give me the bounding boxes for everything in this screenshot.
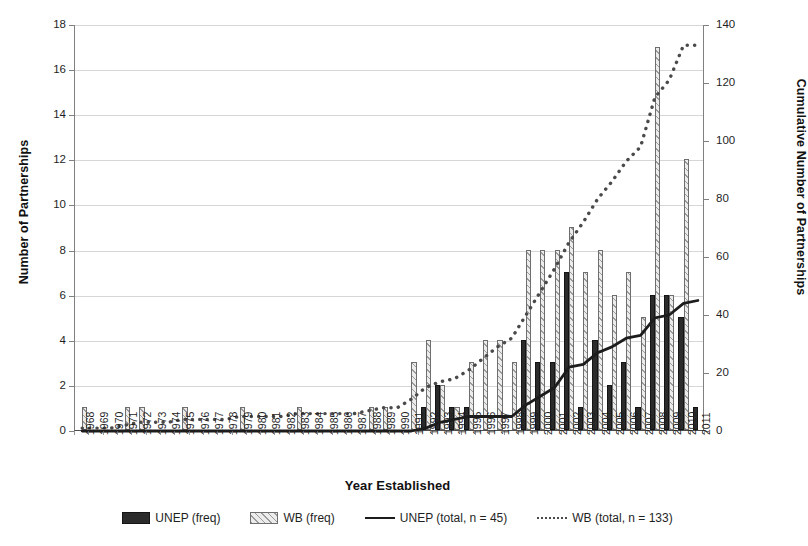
y-axis-right-tick-label: 120 — [716, 77, 756, 89]
x-axis-tick-label: 1988 — [372, 412, 383, 435]
y-axis-right-title: Cumulative Number of Partnerships — [794, 47, 808, 327]
x-axis-tick-label: 1974 — [171, 412, 182, 435]
x-axis-tick-label: 2003 — [586, 412, 597, 435]
x-axis-tick-label: 1991 — [414, 412, 425, 435]
x-axis-tick-label: 1986 — [343, 412, 354, 435]
x-axis-tick-label: 1997 — [500, 412, 511, 435]
x-axis-tick-label: 2008 — [658, 412, 669, 435]
x-axis-tick-label: 1977 — [214, 412, 225, 435]
x-axis-tick-label: 1992 — [429, 412, 440, 435]
x-axis-labels: 1968196919701971197219731974197519761977… — [74, 433, 704, 477]
line-series-group — [75, 25, 705, 431]
y-axis-right-tick-label: 0 — [716, 425, 756, 437]
x-axis-tick-label: 1983 — [300, 412, 311, 435]
x-axis-tick-label: 1996 — [486, 412, 497, 435]
y-axis-left-tick-mark — [69, 205, 74, 206]
y-axis-left-tick-mark — [69, 341, 74, 342]
y-axis-right-tick-mark — [704, 83, 709, 84]
y-axis-left-tick-label: 10 — [26, 199, 66, 211]
x-axis-tick-label: 1971 — [128, 412, 139, 435]
legend-item[interactable]: UNEP (total, n = 45) — [365, 511, 508, 525]
x-axis-tick-label: 1985 — [329, 412, 340, 435]
legend-label: WB (freq) — [283, 511, 334, 525]
x-axis-tick-label: 1979 — [243, 412, 254, 435]
y-axis-right-tick-mark — [704, 199, 709, 200]
y-axis-left-tick-label: 4 — [26, 335, 66, 347]
x-axis-tick-label: 1989 — [386, 412, 397, 435]
y-axis-left-tick-mark — [69, 160, 74, 161]
x-axis-title: Year Established — [0, 478, 795, 493]
wb-bar-swatch-icon — [250, 512, 278, 524]
x-axis-tick-label: 1975 — [185, 412, 196, 435]
chart-legend: UNEP (freq)WB (freq)UNEP (total, n = 45)… — [0, 505, 795, 531]
y-axis-left-tick-label: 14 — [26, 109, 66, 121]
x-axis-tick-label: 1981 — [271, 412, 282, 435]
y-axis-left-tick-mark — [69, 296, 74, 297]
y-axis-left-tick-mark — [69, 251, 74, 252]
y-axis-right-tick-label: 40 — [716, 309, 756, 321]
x-axis-tick-label: 1982 — [286, 412, 297, 435]
y-axis-left-tick-label: 12 — [26, 154, 66, 166]
y-axis-left-tick-label: 2 — [26, 380, 66, 392]
y-axis-left-tick-label: 18 — [26, 19, 66, 31]
plot-area — [74, 25, 704, 431]
x-axis-tick-label: 1995 — [472, 412, 483, 435]
x-axis-tick-label: 1984 — [314, 412, 325, 435]
x-axis-tick-label: 2000 — [543, 412, 554, 435]
x-axis-tick-label: 2001 — [558, 412, 569, 435]
x-axis-tick-label: 1980 — [257, 412, 268, 435]
line-wb-total — [82, 45, 698, 428]
x-axis-tick-label: 1968 — [85, 412, 96, 435]
x-axis-tick-label: 1973 — [157, 412, 168, 435]
legend-label: UNEP (total, n = 45) — [400, 511, 508, 525]
legend-item[interactable]: UNEP (freq) — [122, 511, 220, 525]
x-axis-tick-label: 2007 — [644, 412, 655, 435]
y-axis-right-tick-mark — [704, 315, 709, 316]
x-axis-tick-label: 2011 — [701, 412, 712, 435]
x-axis-tick-label: 2005 — [615, 412, 626, 435]
y-axis-left-tick-mark — [69, 115, 74, 116]
x-axis-tick-label: 1978 — [228, 412, 239, 435]
x-axis-tick-label: 1987 — [357, 412, 368, 435]
y-axis-right-tick-label: 20 — [716, 367, 756, 379]
y-axis-left-tick-mark — [69, 25, 74, 26]
y-axis-left-tick-label: 6 — [26, 290, 66, 302]
x-axis-tick-label: 2010 — [687, 412, 698, 435]
y-axis-right-tick-label: 80 — [716, 193, 756, 205]
y-axis-left-tick-label: 8 — [26, 245, 66, 257]
unep-line-swatch-icon — [365, 517, 395, 519]
x-axis-tick-label: 2009 — [672, 412, 683, 435]
legend-item[interactable]: WB (freq) — [250, 511, 334, 525]
y-axis-right-tick-label: 100 — [716, 135, 756, 147]
legend-label: UNEP (freq) — [155, 511, 220, 525]
unep-bar-swatch-icon — [122, 512, 150, 524]
y-axis-right-tick-mark — [704, 141, 709, 142]
y-axis-right-tick-label: 60 — [716, 251, 756, 263]
y-axis-left-tick-mark — [69, 386, 74, 387]
x-axis-tick-label: 1970 — [114, 412, 125, 435]
x-axis-tick-label: 1972 — [142, 412, 153, 435]
y-axis-left-tick-label: 0 — [26, 425, 66, 437]
x-axis-tick-label: 2002 — [572, 412, 583, 435]
x-axis-tick-label: 1993 — [443, 412, 454, 435]
x-axis-tick-label: 1969 — [99, 412, 110, 435]
wb-line-swatch-icon — [537, 517, 567, 519]
y-axis-right-tick-mark — [704, 25, 709, 26]
y-axis-right-tick-mark — [704, 373, 709, 374]
x-axis-tick-label: 1998 — [515, 412, 526, 435]
legend-item[interactable]: WB (total, n = 133) — [537, 511, 672, 525]
y-axis-left-tick-mark — [69, 70, 74, 71]
y-axis-left-tick-label: 16 — [26, 64, 66, 76]
x-axis-tick-label: 1999 — [529, 412, 540, 435]
x-axis-tick-label: 1994 — [457, 412, 468, 435]
y-axis-right-tick-label: 140 — [716, 19, 756, 31]
x-axis-tick-label: 1976 — [200, 412, 211, 435]
x-axis-tick-label: 2006 — [629, 412, 640, 435]
x-axis-tick-label: 1990 — [400, 412, 411, 435]
y-axis-right-tick-mark — [704, 257, 709, 258]
x-axis-tick-label: 2004 — [601, 412, 612, 435]
legend-label: WB (total, n = 133) — [572, 511, 672, 525]
